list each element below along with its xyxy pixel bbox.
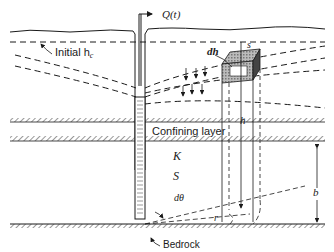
radial-lines (145, 186, 305, 224)
bedrock-label: Bedrock (163, 239, 201, 250)
bedrock (10, 224, 325, 228)
s-storativity-label: S (173, 169, 179, 183)
dtheta-label: dθ (174, 192, 184, 203)
discharge-label: Q(t) (162, 8, 181, 21)
initial-head-label: Initial hc (55, 46, 94, 60)
well (135, 14, 152, 219)
dh-label: dh (207, 45, 219, 57)
h-label: h (240, 114, 246, 126)
b-label: b (313, 186, 319, 198)
s-label: s (247, 39, 251, 50)
k-label: K (172, 149, 182, 163)
aquifer-diagram: Q(t) Initial hc dh s h Confining layer K… (0, 0, 334, 252)
r-label: r (214, 212, 218, 223)
leakage-arrows (183, 66, 205, 96)
confining-layer-label: Confining layer (152, 125, 226, 137)
